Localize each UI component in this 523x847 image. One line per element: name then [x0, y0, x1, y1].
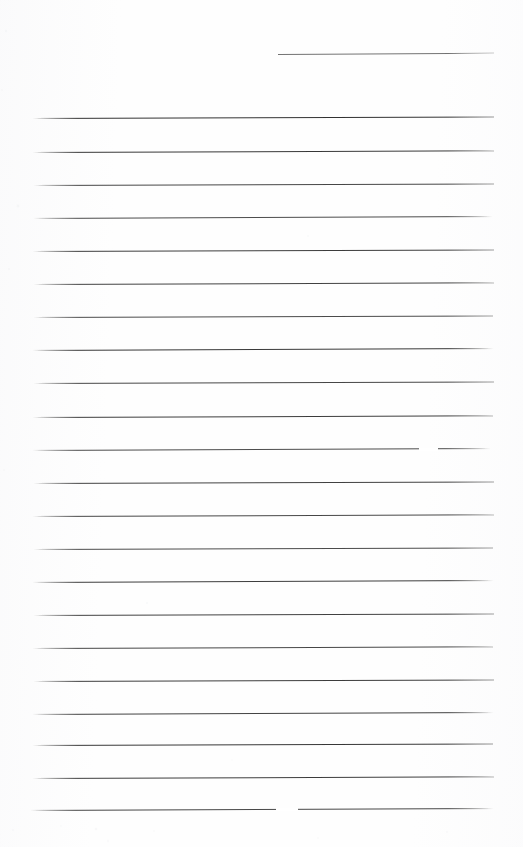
ruled-line [32, 448, 491, 451]
scan-speckle [153, 830, 155, 832]
ruled-line [30, 808, 494, 811]
ruled-line [33, 282, 494, 285]
ruled-line [32, 116, 494, 119]
scan-speckle [60, 825, 62, 827]
ruled-line [33, 315, 493, 318]
scan-speckle [5, 30, 7, 32]
scan-speckle [17, 205, 20, 208]
ruled-line [32, 249, 494, 252]
ruled-line [278, 53, 494, 55]
ruled-line [32, 580, 494, 583]
scan-speckle [1, 89, 3, 91]
ruled-line [32, 776, 494, 779]
scan-speckle [12, 829, 14, 831]
ruled-line [32, 348, 494, 351]
ruled-line [33, 183, 494, 186]
scan-speckle [3, 469, 5, 471]
scan-speckle [317, 837, 319, 839]
scan-speckle [231, 759, 233, 761]
ruled-line [32, 150, 494, 153]
ruled-line [33, 481, 494, 484]
scan-speckle [95, 828, 98, 831]
ruled-line [33, 381, 494, 384]
scan-speckle-noise [0, 0, 523, 847]
paper-texture [0, 0, 523, 847]
scan-speckle [446, 831, 448, 833]
ruled-line [33, 613, 494, 616]
scan-speckle [307, 235, 309, 237]
ruled-line [33, 679, 494, 682]
ruled-line [32, 415, 493, 418]
ruled-line [33, 216, 493, 219]
scan-speckle [146, 602, 148, 604]
ruled-line-gap [276, 808, 298, 811]
scanned-page [0, 0, 523, 847]
ruled-line [32, 712, 494, 715]
ruled-line [32, 514, 494, 517]
ruled-line-gap [419, 448, 438, 451]
ruled-line [33, 547, 493, 550]
ruled-line [32, 743, 493, 746]
scan-speckle [8, 268, 10, 270]
scan-speckle [107, 840, 109, 842]
ruled-line [32, 646, 493, 649]
